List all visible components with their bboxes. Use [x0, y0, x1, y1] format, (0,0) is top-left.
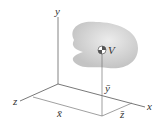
z-axis-label: z — [12, 95, 18, 107]
x-axis — [58, 84, 145, 107]
x-bar-label: x̄ — [56, 107, 62, 119]
z-bar-label: z̄ — [119, 108, 125, 120]
centroid-diagram: y z x V ȳ x̄ z̄ — [0, 0, 163, 129]
diagram-svg: y z x V ȳ x̄ z̄ — [0, 0, 163, 129]
volume-body — [72, 22, 138, 69]
x-bar-line — [33, 97, 102, 116]
y-bar-label: ȳ — [104, 82, 111, 94]
z-bar-line — [102, 103, 132, 116]
centroid-marker — [98, 46, 106, 54]
x-axis-label: x — [146, 100, 152, 112]
y-axis-label: y — [54, 5, 60, 17]
